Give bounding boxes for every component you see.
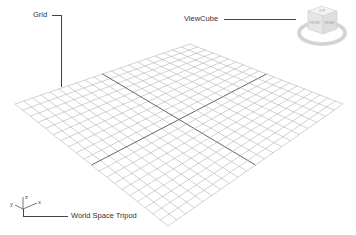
tripod-callout-leader-h — [23, 216, 68, 217]
grid-callout-leader-v — [61, 15, 62, 87]
svg-text:TOP: TOP — [319, 9, 325, 13]
grid-line — [181, 47, 334, 110]
grid-line — [145, 95, 320, 208]
svg-text:FRONT: FRONT — [310, 21, 321, 25]
tripod-axis-z: z — [25, 194, 28, 200]
viewcube-callout-label: ViewCube — [184, 15, 218, 23]
grid-callout-label: Grid — [33, 11, 47, 19]
tripod-axis-y: y — [10, 201, 13, 207]
grid-line — [190, 44, 343, 104]
world-space-tripod: z x y — [6, 192, 46, 232]
tripod-axis-x: x — [38, 199, 41, 205]
viewport-diagram: Grid ViewCube TOP FRONT RIGHT z x y Worl… — [0, 0, 356, 235]
viewcube[interactable]: TOP FRONT RIGHT — [292, 0, 352, 50]
svg-text:RIGHT: RIGHT — [325, 21, 335, 25]
viewcube-callout-leader — [224, 19, 296, 20]
tripod-callout-label: World Space Tripod — [71, 212, 137, 220]
